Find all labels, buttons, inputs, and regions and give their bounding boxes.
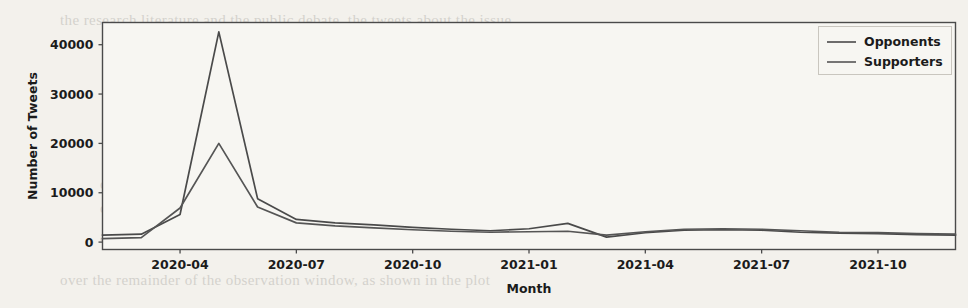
x-tick-label: 2021-04 bbox=[617, 257, 675, 272]
x-tick-label: 2021-10 bbox=[849, 257, 907, 272]
legend-label-opponents: Opponents bbox=[864, 34, 941, 49]
y-tick-label: 0 bbox=[85, 235, 94, 250]
y-axis: 010000200003000040000 bbox=[50, 37, 103, 249]
x-axis: 2020-042020-072020-102021-012021-042021-… bbox=[151, 250, 907, 272]
x-tick-label: 2020-07 bbox=[268, 257, 325, 272]
y-axis-label: Number of Tweets bbox=[25, 72, 40, 200]
x-tick-label: 2021-01 bbox=[500, 257, 557, 272]
y-tick-label: 40000 bbox=[50, 37, 94, 52]
x-axis-label: Month bbox=[507, 281, 552, 296]
x-tick-label: 2021-07 bbox=[733, 257, 790, 272]
legend-label-supporters: Supporters bbox=[864, 54, 943, 69]
y-tick-label: 30000 bbox=[50, 87, 94, 102]
y-tick-label: 10000 bbox=[50, 185, 94, 200]
y-tick-label: 20000 bbox=[50, 136, 94, 151]
chart-legend: Opponents Supporters bbox=[819, 27, 952, 75]
tweet-volume-line-chart: 010000200003000040000 2020-042020-072020… bbox=[0, 0, 968, 308]
x-tick-label: 2020-04 bbox=[151, 257, 209, 272]
x-tick-label: 2020-10 bbox=[384, 257, 442, 272]
